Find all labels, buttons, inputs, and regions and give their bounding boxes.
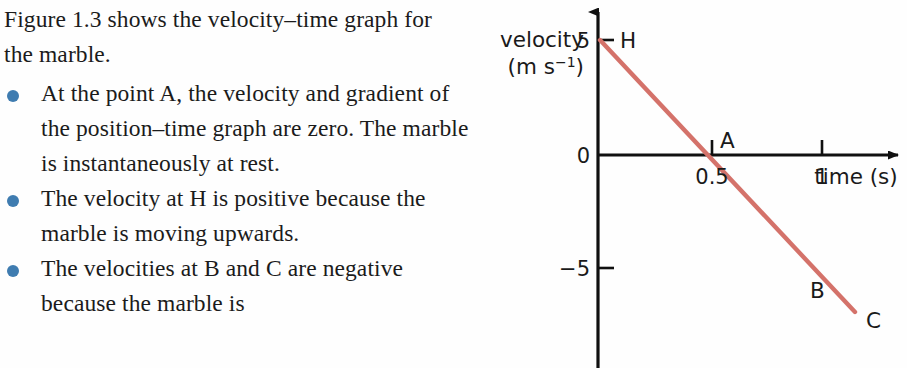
velocity-time-graph: velocity (m s−1) 5 0 −5 0.5 1 time (s) H… <box>470 0 907 368</box>
bullet-dot-icon <box>7 90 19 102</box>
list-item: The velocity at H is positive because th… <box>0 181 470 251</box>
list-item-label: At the point A, the velocity and gradien… <box>41 76 470 181</box>
bullet-list: At the point A, the velocity and gradien… <box>0 76 470 321</box>
x-tick-label-0-5: 0.5 <box>695 165 728 189</box>
y-axis-units-exponent: −1 <box>555 54 576 70</box>
figure-page: Figure 1.3 shows the velocity–time graph… <box>0 0 907 368</box>
y-axis-title: velocity <box>500 27 584 52</box>
point-label-c: C <box>866 308 881 333</box>
list-item: The velocities at B and C are negative b… <box>0 251 470 321</box>
y-tick-label-minus5: −5 <box>559 257 590 281</box>
y-axis-units-close: ) <box>576 54 584 79</box>
figure-intro-paragraph: Figure 1.3 shows the velocity–time graph… <box>4 2 466 72</box>
graph-svg: velocity (m s−1) 5 0 −5 0.5 1 time (s) H… <box>470 0 907 368</box>
explanatory-text-column: Figure 1.3 shows the velocity–time graph… <box>0 0 470 368</box>
y-axis-units-base: (m s <box>508 54 555 79</box>
x-axis-title: time (s) <box>814 164 897 189</box>
list-item-label: The velocity at H is positive because th… <box>41 181 470 251</box>
bullet-dot-icon <box>7 265 19 277</box>
y-tick-label-0: 0 <box>577 144 590 168</box>
point-label-h: H <box>620 28 636 53</box>
list-item-label: The velocities at B and C are negative b… <box>41 251 470 321</box>
point-label-a: A <box>720 128 735 153</box>
bullet-dot-icon <box>7 195 19 207</box>
list-item: At the point A, the velocity and gradien… <box>0 76 470 181</box>
y-tick-label-5: 5 <box>577 29 590 53</box>
point-label-b: B <box>810 278 825 303</box>
y-axis-units: (m s−1) <box>508 54 584 79</box>
